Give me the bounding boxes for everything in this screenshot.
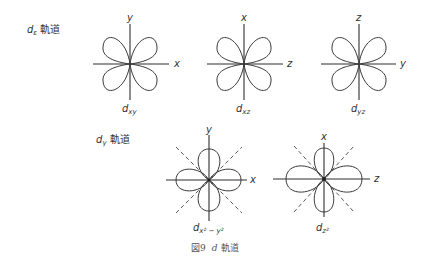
nucleus-dot [322, 177, 326, 181]
orbital-dx2-y2: x y dx² − y² [166, 124, 256, 235]
group-label-suffix: 軌道 [110, 133, 130, 145]
orbital-label: dxz [236, 103, 251, 116]
orbital-dz2: z x dz² [273, 131, 380, 235]
group-label-sub: ε [33, 29, 37, 37]
axis-label-v: z [355, 12, 362, 23]
figure-caption: 図9d軌道 [191, 242, 239, 253]
orbital-label: dyz [351, 103, 366, 116]
orbital-label: dx² − y² [193, 222, 224, 235]
caption-text: 軌道 [221, 242, 239, 253]
axis-label-v: x [320, 131, 327, 142]
orbital-label: dxy [122, 103, 138, 116]
orbital-label: dz² [316, 222, 329, 235]
axis-label-h: x [249, 174, 256, 185]
group-label-suffix: 軌道 [40, 23, 60, 35]
orbital-dxy: x y dxy [93, 12, 180, 116]
axis-label-h: x [173, 58, 180, 69]
nucleus-dot [207, 178, 210, 181]
svg-text:dγ軌道: dγ軌道 [96, 133, 130, 147]
caption-italic: d [212, 243, 218, 253]
orbital-dyz: y z dyz [321, 12, 407, 116]
axis-label-h: y [399, 58, 407, 69]
axis-label-h: z [373, 173, 380, 184]
group-label-d-epsilon: dε軌道 [27, 23, 60, 37]
group-label-sub: γ [102, 139, 107, 147]
axis-label-v: x [240, 12, 247, 23]
group-label-d-gamma: dγ軌道 [96, 133, 130, 147]
svg-text:dε軌道: dε軌道 [27, 23, 60, 37]
svg-text:図9d軌道: 図9d軌道 [191, 242, 239, 253]
orbital-dxz: z x dxz [207, 12, 293, 116]
axis-label-v: y [126, 12, 134, 23]
d-orbital-figure: dε軌道 x y dxy z x dxz [0, 0, 427, 266]
axis-label-h: z [286, 58, 293, 69]
caption-number: 図9 [191, 243, 206, 253]
axis-label-v: y [205, 124, 213, 135]
